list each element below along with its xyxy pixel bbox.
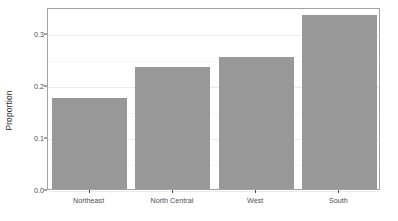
bar-chart-figure: Proportion 0.00.10.20.3 NortheastNorth C… [0,0,398,221]
gridline-major [48,191,379,192]
plot-area [48,9,379,189]
y-axis-tick-mark [44,190,47,191]
y-axis-title: Proportion [0,0,18,221]
bar-south [302,15,377,189]
y-axis-tick-label: 0.2 [18,82,44,91]
y-axis-tick-labels: 0.00.10.20.3 [18,0,44,221]
x-axis-tick-label: South [329,196,348,205]
bar-north-central [135,67,210,189]
bar-west [219,57,294,189]
x-axis-tick-mark [89,190,90,193]
y-axis-tick-label: 0.0 [18,186,44,195]
x-axis-tick-label: North Central [151,196,194,205]
y-axis-tick-label: 0.1 [18,134,44,143]
y-axis-tick-label: 0.3 [18,30,44,39]
x-axis-tick-mark [255,190,256,193]
x-axis-tick-mark [172,190,173,193]
x-axis-tick-label: West [247,196,263,205]
bar-northeast [52,98,127,189]
y-axis-tick-mark [44,138,47,139]
y-axis-tick-mark [44,86,47,87]
plot-panel [47,8,380,190]
y-axis-tick-mark [44,34,47,35]
x-axis-tick-label: Northeast [73,196,104,205]
x-axis-tick-mark [338,190,339,193]
